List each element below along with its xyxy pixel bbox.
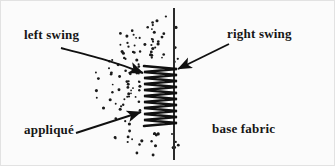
label-right-swing: right swing [227,26,292,42]
diagram-svg [0,0,335,166]
label-left-swing: left swing [24,27,79,43]
label-applique: appliqué [24,122,74,138]
figure-canvas: left swing right swing appliqué base fab… [0,0,335,166]
label-base-fabric: base fabric [212,121,275,137]
